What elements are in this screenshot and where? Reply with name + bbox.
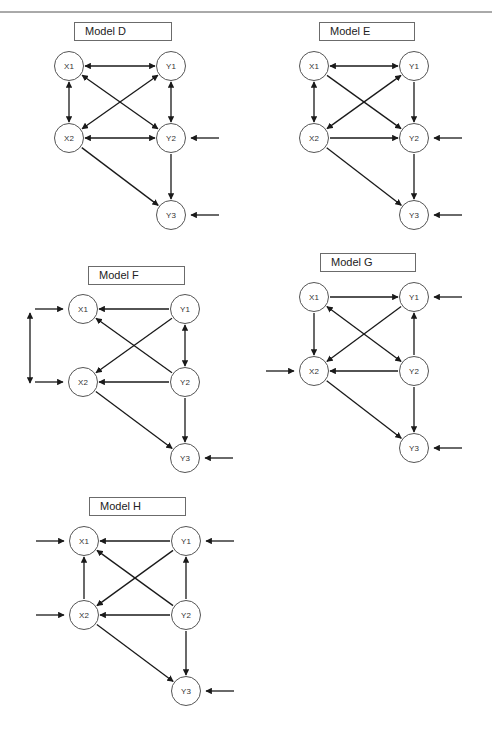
- node-x2: X2: [54, 123, 84, 153]
- path-x2-y3: [96, 392, 172, 449]
- node-label: X2: [64, 134, 74, 143]
- node-y2: Y2: [171, 600, 201, 630]
- node-label: X2: [79, 611, 89, 620]
- node-label: Y2: [409, 134, 419, 143]
- node-y2: Y2: [156, 123, 186, 153]
- node-label: X1: [309, 293, 319, 302]
- node-label: Y1: [181, 537, 191, 546]
- node-label: Y2: [409, 367, 419, 376]
- node-label: X1: [309, 62, 319, 71]
- path-x2-y3: [327, 381, 402, 438]
- node-x2: X2: [69, 600, 99, 630]
- node-label: X1: [64, 62, 74, 71]
- node-label: Y3: [166, 211, 176, 220]
- node-x2: X2: [299, 123, 329, 153]
- node-y2: Y2: [170, 367, 200, 397]
- model-title-box: Model E: [319, 22, 415, 41]
- node-y3: Y3: [399, 433, 429, 463]
- node-label: Y1: [409, 293, 419, 302]
- node-label: Y2: [166, 134, 176, 143]
- node-label: Y3: [409, 444, 419, 453]
- node-label: X1: [79, 537, 89, 546]
- node-y2: Y2: [399, 356, 429, 386]
- node-label: Y3: [181, 687, 191, 696]
- node-label: Y2: [180, 378, 190, 387]
- node-y1: Y1: [156, 51, 186, 81]
- model-title: Model G: [331, 256, 373, 268]
- node-y1: Y1: [399, 51, 429, 81]
- node-label: X2: [309, 367, 319, 376]
- node-label: Y1: [180, 305, 190, 314]
- node-x1: X1: [68, 294, 98, 324]
- node-x2: X2: [299, 356, 329, 386]
- node-label: X2: [309, 134, 319, 143]
- path-x2-y3: [327, 148, 402, 205]
- node-label: Y2: [181, 611, 191, 620]
- model-title-box: Model D: [74, 22, 172, 41]
- node-label: Y1: [409, 62, 419, 71]
- node-y3: Y3: [171, 676, 201, 706]
- node-x1: X1: [54, 51, 84, 81]
- node-y1: Y1: [171, 526, 201, 556]
- model-title: Model D: [85, 25, 126, 37]
- node-y1: Y1: [399, 282, 429, 312]
- node-label: Y3: [180, 454, 190, 463]
- model-title: Model F: [99, 269, 139, 281]
- model-title: Model H: [100, 500, 141, 512]
- node-label: Y1: [166, 62, 176, 71]
- node-x1: X1: [69, 526, 99, 556]
- model-title-box: Model F: [88, 266, 185, 285]
- node-label: Y3: [409, 211, 419, 220]
- model-title-box: Model H: [89, 497, 186, 516]
- path-x2-y3: [82, 148, 158, 206]
- node-y1: Y1: [170, 294, 200, 324]
- path-x2-y3: [97, 625, 173, 682]
- node-x1: X1: [299, 51, 329, 81]
- node-label: X2: [78, 378, 88, 387]
- node-x2: X2: [68, 367, 98, 397]
- node-y3: Y3: [399, 200, 429, 230]
- node-label: X1: [78, 305, 88, 314]
- node-y3: Y3: [170, 443, 200, 473]
- node-x1: X1: [299, 282, 329, 312]
- model-title-box: Model G: [320, 253, 416, 272]
- node-y3: Y3: [156, 200, 186, 230]
- node-y2: Y2: [399, 123, 429, 153]
- model-title: Model E: [330, 25, 370, 37]
